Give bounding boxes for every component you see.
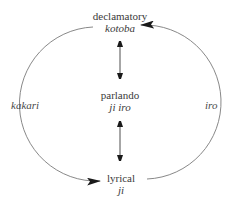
node-parlando: parlando ji iro — [101, 89, 139, 113]
node-parlando-label: parlando — [101, 89, 139, 101]
arc-label-iro: iro — [205, 99, 217, 111]
node-declamatory-sublabel: kotoba — [93, 22, 147, 34]
node-parlando-sublabel: ji iro — [101, 101, 139, 113]
node-declamatory: declamatory kotoba — [93, 10, 147, 34]
node-lyrical-sublabel: ji — [107, 184, 135, 196]
node-lyrical-label: lyrical — [107, 172, 135, 184]
node-declamatory-label: declamatory — [93, 10, 147, 22]
arc-label-kakari: kakari — [11, 99, 39, 111]
node-lyrical: lyrical ji — [107, 172, 135, 196]
